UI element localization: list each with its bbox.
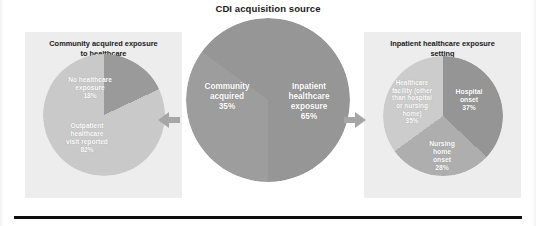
panel-right-header-line1: Inpatient healthcare exposure: [390, 39, 495, 48]
page-edge-left: [0, 0, 4, 226]
arrow-right-icon: [342, 108, 368, 132]
arrow-left-icon: [156, 108, 182, 132]
pie-chart-community-acquired: [43, 54, 165, 176]
slice-label-nursing-home-onset: Nursinghomeonset28%: [415, 140, 469, 173]
slice-label-outpatient-visit: Outpatienthealthcarevisit reported82%: [48, 122, 126, 154]
page-edge-right: [532, 0, 536, 226]
panel-left-header-line1: Community acquired exposure: [49, 39, 157, 48]
slice-label-hospital-onset: Hospitalonset37%: [443, 88, 495, 112]
chart-title: CDI acquisition source: [0, 3, 536, 14]
chart-figure: CDI acquisition source Community acquire…: [0, 0, 536, 226]
bottom-divider: [14, 216, 522, 219]
slice-label-inpatient-healthcare-exposure: Inpatienthealthcareexposure65%: [276, 82, 342, 121]
slice-label-healthcare-facility: Healthcarefacility (otherthan hospitalor…: [384, 79, 440, 125]
slice-label-no-healthcare-exposure: No healthcareexposure18%: [58, 76, 122, 100]
slice-label-community-acquired: Communityacquired35%: [196, 82, 258, 112]
pie-left-slices: [43, 54, 165, 176]
